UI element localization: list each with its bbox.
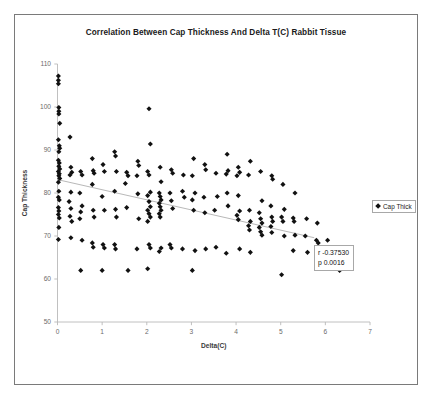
- scatter-point: [268, 203, 273, 208]
- y-tick-label: 100: [40, 103, 51, 110]
- scatter-point: [237, 246, 242, 251]
- x-tick-label: 0: [56, 328, 60, 335]
- scatter-point: [248, 250, 253, 255]
- scatter-point: [280, 182, 285, 187]
- scatter-point: [135, 191, 140, 196]
- scatter-point: [113, 246, 118, 251]
- y-tick-label: 110: [40, 60, 51, 67]
- scatter-point: [56, 237, 61, 242]
- axis-titles: Delta(C)Cap Thickness: [21, 169, 226, 350]
- scatter-point: [303, 233, 308, 238]
- scatter-point: [258, 169, 263, 174]
- chart-legend[interactable]: Cap Thick: [372, 200, 416, 213]
- scatter-point: [56, 137, 61, 142]
- scatter-point: [78, 268, 83, 273]
- y-tick-label: 70: [44, 232, 52, 239]
- x-tick-label: 4: [234, 328, 238, 335]
- scatter-point: [191, 208, 196, 213]
- scatter-point: [247, 227, 252, 232]
- scatter-point: [192, 190, 197, 195]
- scatter-point: [134, 173, 139, 178]
- scatter-point: [247, 208, 252, 213]
- x-tick-label: 2: [145, 328, 149, 335]
- scatter-point: [225, 190, 230, 195]
- scatter-point: [190, 173, 195, 178]
- scatter-point: [315, 221, 320, 226]
- scatter-point: [68, 190, 73, 195]
- scatter-point: [146, 106, 151, 111]
- legend-series-label: Cap Thick: [383, 203, 412, 210]
- x-tick-label: 6: [324, 328, 328, 335]
- scatter-point: [91, 245, 96, 250]
- scatter-point: [67, 135, 72, 140]
- scatter-point: [158, 165, 163, 170]
- scatter-point: [304, 216, 309, 221]
- correlation-p-value: p 0.0016: [318, 258, 349, 268]
- scatter-point: [159, 179, 164, 184]
- y-tick-label: 80: [44, 189, 52, 196]
- legend-diamond-icon: [375, 203, 382, 210]
- scatter-point: [282, 233, 287, 238]
- scatter-point: [259, 198, 264, 203]
- scatter-point: [123, 181, 128, 186]
- scatter-point: [257, 210, 262, 215]
- scatter-point: [125, 268, 130, 273]
- scatter-point: [258, 216, 263, 221]
- scatter-point: [167, 190, 172, 195]
- scatter-point: [248, 159, 253, 164]
- correlation-r-value: r -0.37530: [318, 248, 349, 258]
- scatter-point: [91, 208, 96, 213]
- scatter-point: [68, 165, 73, 170]
- x-axis-title: Delta(C): [201, 342, 226, 350]
- scatter-point: [102, 169, 107, 174]
- scatter-point: [181, 172, 186, 177]
- scatter-point: [56, 81, 61, 86]
- chart-figure: Correlation Between Cap Thickness And De…: [0, 0, 442, 412]
- scatter-point: [203, 246, 208, 251]
- scatter-point: [270, 219, 275, 224]
- scatter-point: [114, 169, 119, 174]
- y-tick-label: 50: [44, 318, 52, 325]
- scatter-point: [136, 163, 141, 168]
- scatter-point: [92, 215, 97, 220]
- scatter-point: [80, 203, 85, 208]
- scatter-point: [90, 156, 95, 161]
- scatter-point: [80, 238, 85, 243]
- scatter-point: [77, 216, 82, 221]
- x-tick-label: 7: [368, 328, 372, 335]
- scatter-point: [100, 268, 105, 273]
- scatter-point: [69, 219, 74, 224]
- scatter-point: [202, 162, 207, 167]
- scatter-point: [292, 190, 297, 195]
- scatter-point: [77, 190, 82, 195]
- scatter-point: [269, 230, 274, 235]
- scatter-point: [234, 213, 239, 218]
- y-axis-title: Cap Thickness: [21, 169, 29, 216]
- scatter-point: [68, 235, 73, 240]
- scatter-point: [100, 162, 105, 167]
- scatter-point: [112, 149, 117, 154]
- scatter-point: [180, 246, 185, 251]
- scatter-point: [114, 215, 119, 220]
- scatter-point: [67, 199, 72, 204]
- scatter-point: [135, 159, 140, 164]
- scatter-point: [259, 221, 264, 226]
- scatter-point: [201, 195, 206, 200]
- scatter-point: [145, 219, 150, 224]
- scatter-point: [279, 215, 284, 220]
- trendline: [60, 180, 314, 238]
- scatter-point: [213, 245, 218, 250]
- scatter-point: [90, 240, 95, 245]
- scatter-point: [113, 153, 118, 158]
- scatter-point: [212, 208, 217, 213]
- scatter-point: [246, 172, 251, 177]
- scatter-point: [180, 189, 185, 194]
- scatter-point: [236, 217, 241, 222]
- correlation-stats-box: r -0.37530 p 0.0016: [314, 245, 354, 271]
- scatter-point: [124, 205, 129, 210]
- scatter-point: [67, 214, 72, 219]
- scatter-point: [90, 182, 95, 187]
- scatter-point: [236, 165, 241, 170]
- x-tick-label: 1: [100, 328, 104, 335]
- scatter-point: [237, 209, 242, 214]
